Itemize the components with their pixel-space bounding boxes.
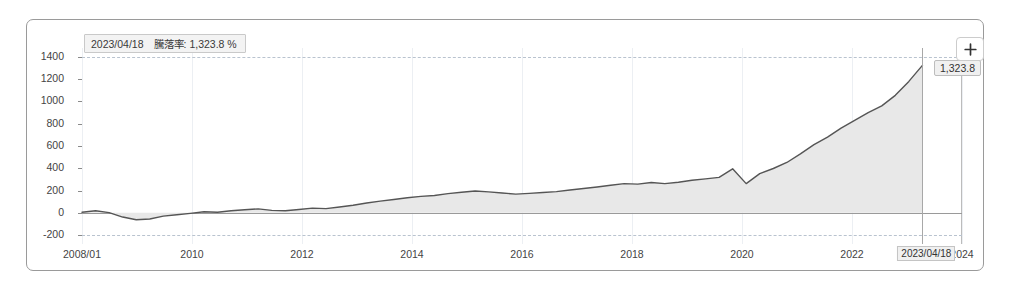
crosshair-line	[922, 48, 923, 244]
tooltip-date: 2023/04/18	[91, 38, 144, 50]
x-axis-tick-label: 2014	[400, 248, 423, 260]
y-axis-tick-label: 1000	[0, 94, 64, 106]
x-axis-tick-label: 2018	[620, 248, 643, 260]
series-plot	[82, 48, 962, 244]
gridline-vertical	[962, 48, 963, 244]
x-axis-tick-label: 2008/01	[63, 248, 101, 260]
y-axis-tick-label: 1200	[0, 72, 64, 84]
chart-widget: 1400120010008006004002000-200 2008/01201…	[0, 0, 1010, 294]
x-axis-tick-label: 2016	[510, 248, 533, 260]
y-axis-tick-label: 200	[0, 184, 64, 196]
y-axis-tick-label: 0	[0, 206, 64, 218]
y-axis-tick-label: 800	[0, 117, 64, 129]
x-axis-tick-label: 2012	[290, 248, 313, 260]
x-axis: 2008/0120102012201420162018202020222024	[0, 248, 1010, 270]
y-axis-tick-label: 1400	[0, 50, 64, 62]
y-axis-tick-label: 400	[0, 161, 64, 173]
x-axis-tick-label: 2020	[730, 248, 753, 260]
last-value-callout: 1,323.8	[934, 60, 981, 76]
series-area-fill	[82, 65, 922, 219]
value-tooltip: 2023/04/18 騰落率: 1,323.8 %	[84, 34, 246, 53]
tooltip-metric: 騰落率: 1,323.8 %	[154, 36, 237, 51]
y-axis-tick-label: -200	[0, 228, 64, 240]
chart-canvas: 1400120010008006004002000-200 2008/01201…	[0, 0, 1010, 294]
plot-area	[82, 48, 962, 244]
y-axis-tick-label: 600	[0, 139, 64, 151]
axis-date-callout: 2023/04/18	[897, 246, 955, 261]
x-axis-tick-label: 2022	[840, 248, 863, 260]
x-axis-tick-label: 2010	[180, 248, 203, 260]
expand-chart-button[interactable]	[956, 37, 984, 61]
plus-icon	[964, 43, 977, 56]
